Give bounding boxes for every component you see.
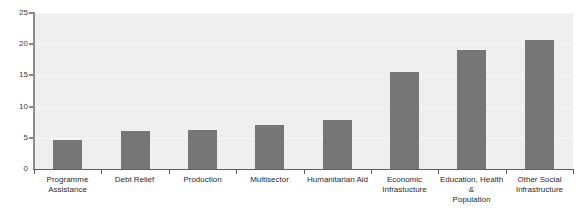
y-axis-tick-mark: [29, 106, 35, 108]
x-axis-category-label: Programme Assistance: [34, 175, 101, 195]
y-axis-tick-label: 10: [4, 103, 28, 111]
bar: [457, 50, 486, 169]
y-axis-line: [33, 12, 35, 170]
y-axis-tick-label: 15: [4, 71, 28, 79]
y-axis-tick-label: 25: [4, 9, 28, 17]
y-axis-tick-mark: [29, 137, 35, 139]
gridline: [34, 44, 573, 45]
x-axis-tick-mark: [438, 169, 439, 174]
x-axis-tick-mark: [236, 169, 237, 174]
bar: [525, 40, 554, 169]
x-axis-category-label: Debt Relief: [101, 175, 168, 185]
x-axis-category-label: Education, Health & Population: [438, 175, 505, 205]
plot-area: [34, 13, 573, 169]
bar: [188, 130, 217, 169]
x-axis-tick-mark: [506, 169, 507, 174]
gridline: [34, 138, 573, 139]
x-axis-tick-mark: [169, 169, 170, 174]
x-axis-tick-mark: [304, 169, 305, 174]
y-axis-tick-label: 0: [4, 165, 28, 173]
bar: [255, 125, 284, 169]
gridline: [34, 107, 573, 108]
x-axis-category-label: Economic Infrastucture: [371, 175, 438, 195]
clipped-title-artifact: [0, 0, 583, 7]
x-axis-category-label: Production: [169, 175, 236, 185]
x-axis-category-label: Multisector: [236, 175, 303, 185]
x-axis-tick-mark: [371, 169, 372, 174]
y-axis-tick-label: 5: [4, 134, 28, 142]
bar-chart: 0510152025 Programme AssistanceDebt Reli…: [0, 0, 583, 208]
gridline: [34, 75, 573, 76]
y-axis-tick-mark: [29, 43, 35, 45]
bar: [323, 120, 352, 169]
bar: [121, 131, 150, 169]
y-axis-tick-mark: [29, 12, 35, 14]
y-axis-tick-mark: [29, 74, 35, 76]
x-axis-tick-mark: [34, 169, 35, 174]
x-axis-tick-mark: [101, 169, 102, 174]
x-axis-category-label: Other Social Infrastructure: [506, 175, 573, 195]
x-axis-tick-mark: [573, 169, 574, 174]
bar: [53, 140, 82, 169]
bar: [390, 72, 419, 169]
gridline: [34, 13, 573, 14]
x-axis-category-label: Humanitarian Aid: [304, 175, 371, 185]
y-axis-tick-label: 20: [4, 40, 28, 48]
